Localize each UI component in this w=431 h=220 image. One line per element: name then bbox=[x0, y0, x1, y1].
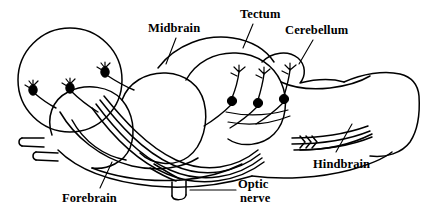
soma-forebrain-2 bbox=[66, 83, 74, 93]
olfactory-stalk-upper-cap bbox=[19, 138, 22, 146]
soma-forebrain-1 bbox=[29, 85, 37, 95]
optic-nerve-stalk-end bbox=[172, 195, 186, 200]
midbrain-outline bbox=[122, 73, 206, 163]
olfactory-stalk-upper bbox=[22, 138, 44, 147]
brain-diagram-svg bbox=[0, 0, 431, 220]
hindbrain-dorsal-edge bbox=[344, 72, 419, 156]
soma-forebrain-3 bbox=[101, 67, 109, 77]
label-optic-nerve-line1: Optic bbox=[238, 177, 268, 191]
leader-cerebellum bbox=[299, 40, 313, 64]
forebrain-neuron-2 bbox=[62, 78, 98, 112]
fiber-tract-4 bbox=[92, 108, 264, 182]
tectal-interneuron-fibers bbox=[226, 110, 290, 124]
label-cerebellum: Cerebellum bbox=[285, 24, 348, 37]
soma-tectal-1 bbox=[227, 96, 236, 105]
label-optic-nerve-line2: nerve bbox=[238, 191, 270, 205]
soma-tectal-3 bbox=[279, 94, 288, 103]
label-forebrain: Forebrain bbox=[62, 192, 117, 205]
label-optic-nerve: Optic nerve bbox=[238, 177, 270, 205]
tectum-dorsal-ridge bbox=[158, 37, 274, 68]
olfactory-stalk-lower bbox=[36, 152, 58, 161]
label-hindbrain: Hindbrain bbox=[313, 158, 370, 171]
label-tectum: Tectum bbox=[240, 8, 280, 21]
brain-diagram-figure: Midbrain Tectum Cerebellum Hindbrain For… bbox=[0, 0, 431, 220]
label-midbrain: Midbrain bbox=[148, 22, 200, 35]
olfactory-stalk-lower-cap bbox=[33, 152, 36, 160]
tectal-neuron-1 bbox=[204, 65, 245, 126]
soma-tectal-2 bbox=[253, 98, 262, 107]
leader-tectum bbox=[243, 24, 253, 48]
optic-nerve-stalk bbox=[172, 181, 186, 196]
